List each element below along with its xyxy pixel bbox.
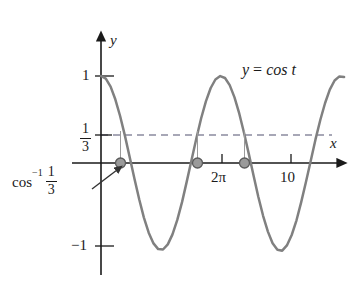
- marker-intersection-third: [240, 158, 250, 168]
- arccos-fraction-one-third: 1 3: [46, 165, 57, 197]
- arccos-one-third-label: cos−1 1 3: [12, 165, 57, 197]
- curve-equation-label: y = cos t: [242, 62, 296, 78]
- arccos-exponent: −1: [32, 167, 43, 178]
- fraction-one-third: 1 3: [80, 122, 91, 154]
- x-tick-label-ten: 10: [280, 170, 295, 185]
- y-tick-label-negative-one: −1: [71, 238, 87, 253]
- arccos-fraction-denominator: 3: [46, 183, 57, 198]
- fraction-denominator: 3: [80, 140, 91, 155]
- equation-lhs: y: [242, 61, 249, 78]
- cosine-graph-figure: y x 1 1 3 −1 2π 10 y = cos t cos−1 1 3: [0, 0, 362, 283]
- fraction-numerator: 1: [80, 122, 91, 137]
- equation-rhs: cos t: [266, 61, 296, 78]
- y-axis-label: y: [110, 33, 117, 48]
- x-tick-label-two-pi: 2π: [211, 170, 226, 185]
- arccos-base-text: cos−1: [12, 173, 43, 190]
- y-tick-label-one-third: 1 3: [80, 122, 91, 154]
- arccos-function-name: cos: [12, 174, 32, 190]
- marker-intersection-second: [193, 158, 203, 168]
- marker-arccos-one-third: [116, 158, 126, 168]
- plot-canvas: [0, 0, 362, 283]
- y-tick-label-one: 1: [82, 68, 90, 83]
- arccos-fraction-numerator: 1: [46, 165, 57, 180]
- x-axis-label: x: [330, 136, 337, 151]
- equation-operator: =: [253, 61, 262, 78]
- arccos-annotation-arrow: [92, 170, 117, 189]
